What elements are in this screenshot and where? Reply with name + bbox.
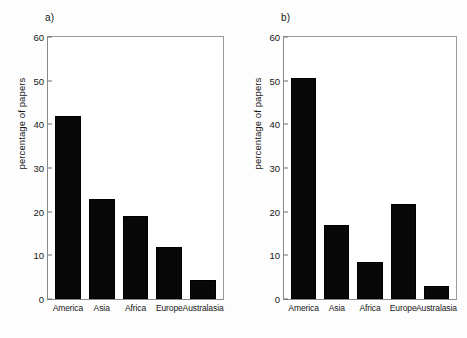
panel-a-plot-area: 0102030405060 AmericaAsiaAfricaEuropeAus… xyxy=(47,36,224,300)
y-tick-label: 10 xyxy=(269,250,280,261)
bar-slot: Africa xyxy=(353,37,386,299)
bar xyxy=(291,78,316,299)
y-tick-label: 10 xyxy=(33,250,44,261)
bar xyxy=(156,247,182,299)
chart-panel-a: a) percentage of papers 0102030405060 Am… xyxy=(0,0,233,338)
bar xyxy=(357,262,382,299)
bar xyxy=(424,286,449,299)
x-tick-label: Europe xyxy=(156,303,183,313)
bar xyxy=(391,204,416,299)
bar xyxy=(190,280,216,299)
x-tick-label: Asia xyxy=(329,303,345,313)
panel-a-bars: AmericaAsiaAfricaEuropeAustralasia xyxy=(48,37,223,299)
bar xyxy=(55,116,81,299)
bar-slot: America xyxy=(51,37,85,299)
bar-slot: Europe xyxy=(387,37,420,299)
panel-a-tag: a) xyxy=(45,12,54,23)
bar xyxy=(123,216,149,299)
y-tick-label: 50 xyxy=(33,75,44,86)
x-tick-label: Asia xyxy=(94,303,110,313)
y-tick-label: 60 xyxy=(33,32,44,43)
bar-slot: Australasia xyxy=(186,37,220,299)
y-tick-label: 20 xyxy=(33,206,44,217)
y-tick-label: 60 xyxy=(269,32,280,43)
x-tick-label: America xyxy=(53,303,83,313)
x-tick-label: America xyxy=(288,303,318,313)
x-tick-label: Europe xyxy=(390,303,417,313)
figure-container: a) percentage of papers 0102030405060 Am… xyxy=(0,0,467,338)
y-tick-label: 40 xyxy=(33,119,44,130)
x-tick-label: Africa xyxy=(359,303,380,313)
bar-slot: Asia xyxy=(85,37,119,299)
y-tick-label: 30 xyxy=(269,163,280,174)
panel-b-y-axis-label: percentage of papers xyxy=(252,59,263,189)
y-tick-label: 0 xyxy=(275,294,280,305)
panel-b-plot-area: 0102030405060 AmericaAsiaAfricaEuropeAus… xyxy=(283,36,457,300)
bar-slot: Australasia xyxy=(420,37,453,299)
chart-panel-b: b) percentage of papers 0102030405060 Am… xyxy=(233,0,466,338)
x-tick-label: Australasia xyxy=(416,303,457,313)
bar xyxy=(89,199,115,299)
y-tick-label: 40 xyxy=(269,119,280,130)
bar xyxy=(324,225,349,299)
bar-slot: America xyxy=(287,37,320,299)
y-tick-label: 0 xyxy=(39,294,44,305)
bar-slot: Africa xyxy=(119,37,153,299)
x-tick-label: Africa xyxy=(125,303,146,313)
y-tick-label: 30 xyxy=(33,163,44,174)
x-tick-label: Australasia xyxy=(183,303,224,313)
panel-b-tag: b) xyxy=(281,12,290,23)
y-tick-label: 50 xyxy=(269,75,280,86)
bar-slot: Asia xyxy=(320,37,353,299)
panel-b-bars: AmericaAsiaAfricaEuropeAustralasia xyxy=(284,37,456,299)
bar-slot: Europe xyxy=(152,37,186,299)
y-tick-label: 20 xyxy=(269,206,280,217)
panel-a-y-axis-label: percentage of papers xyxy=(16,59,27,189)
